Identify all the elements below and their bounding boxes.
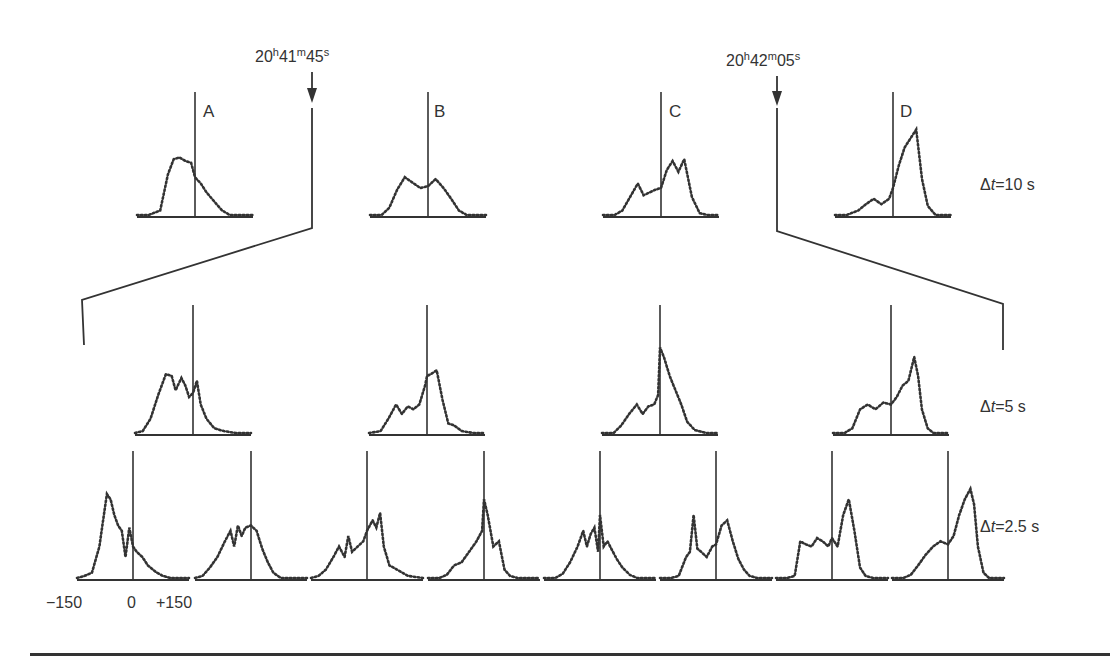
panel-label-c: C [669, 102, 681, 122]
row-dt-10s [137, 92, 951, 217]
profile-panel-a [137, 92, 253, 217]
zoom-connectors [82, 72, 1003, 350]
profile-panel-2-5s-2 [195, 451, 307, 580]
panel-label-a: A [203, 102, 214, 122]
profile-panel-5s-4 [833, 305, 949, 435]
axis-tick-0: 0 [127, 594, 136, 612]
row-dt-2-5s [77, 451, 1004, 580]
axis-tick-minus150: −150 [46, 594, 82, 612]
profile-panel-2-5s-8 [892, 451, 1004, 580]
zoom-bracket-right [777, 108, 1003, 350]
zoom-bracket-left [82, 108, 312, 345]
profile-panel-2-5s-3 [311, 451, 423, 580]
profile-panel-2-5s-1 [77, 451, 189, 580]
profile-panel-c [603, 92, 719, 217]
profile-panel-2-5s-6 [660, 451, 772, 580]
profile-panel-5s-2 [369, 305, 485, 435]
axis-tick-plus150: +150 [156, 594, 192, 612]
profile-panel-b [370, 92, 486, 217]
row-label-2-5s: Δt=2.5 s [980, 518, 1039, 536]
row-label-5s: Δt=5 s [980, 398, 1026, 416]
row-dt-5s [135, 305, 949, 435]
time-marker-1: 20h41m45s [255, 46, 329, 66]
arrow-down-icon [307, 88, 317, 103]
time-marker-2: 20h42m05s [726, 50, 800, 70]
row-label-10s: Δt=10 s [980, 176, 1035, 194]
arrow-down-icon [772, 91, 782, 106]
profile-panel-2-5s-5 [544, 451, 656, 580]
panel-label-b: B [434, 102, 445, 122]
figure-canvas [0, 0, 1119, 656]
profile-panel-2-5s-4 [428, 451, 540, 580]
profile-panel-5s-1 [135, 305, 251, 435]
panel-label-d: D [900, 102, 912, 122]
profile-panel-5s-3 [602, 305, 718, 435]
profile-panel-d [835, 92, 951, 217]
profile-panel-2-5s-7 [776, 451, 888, 580]
